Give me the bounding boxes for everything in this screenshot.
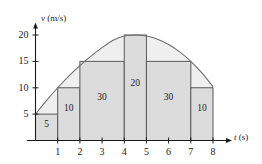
riemann-rect [191,88,213,141]
y-axis-arrow [33,23,38,29]
x-tick-label: 3 [100,147,105,157]
area-value-label: 5 [44,120,49,130]
area-value-label: 30 [97,93,107,103]
x-tick-label: 1 [55,147,60,157]
x-tick-label: 6 [166,147,171,157]
x-tick-label: 4 [122,147,127,157]
y-tick-label: 15 [19,56,29,66]
riemann-rectangles [36,35,214,141]
x-axis-arrow [226,138,232,143]
x-axis-title: t (s) [234,133,248,142]
x-tick-label: 2 [77,147,82,157]
x-tick-label: 8 [211,147,216,157]
area-value-label: 10 [197,104,207,114]
area-value-label: 30 [164,93,174,103]
y-axis-units: (m/s) [47,13,66,23]
y-tick-label: 5 [24,109,29,119]
velocity-time-figure: v (m/s) t (s) 5101520 12345678 510302030… [0,0,262,164]
y-tick-label: 10 [19,83,29,93]
y-tick-label: 20 [19,30,29,40]
x-tick-label: 7 [188,147,193,157]
x-tick-label: 5 [144,147,149,157]
y-axis-title: v (m/s) [41,14,66,23]
area-value-label: 20 [131,79,141,89]
riemann-rect [58,88,80,141]
area-value-label: 10 [64,104,74,114]
x-axis-units: (s) [239,132,249,142]
